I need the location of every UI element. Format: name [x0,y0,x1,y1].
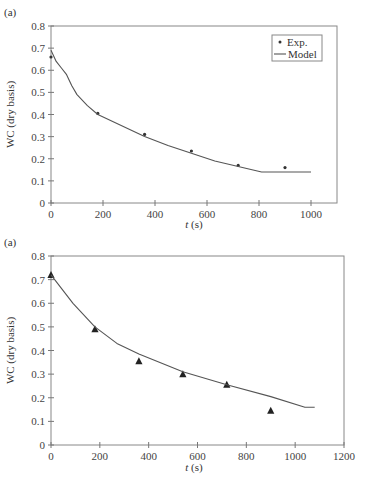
y-tick-label: 0.3 [31,131,45,143]
legend-entry: Model [288,48,317,60]
y-tick-label: 0.2 [31,153,45,165]
y-axis-title: WC (dry basis) [4,81,17,149]
y-axis: 00.10.20.30.40.50.60.70.8 [31,20,54,209]
data-point-triangle [47,271,54,278]
x-axis-title: t (s) [185,461,203,474]
panel-label: (a) [4,236,17,249]
panel-label: (a) [4,6,17,19]
legend-dot-icon [279,41,282,44]
y-tick-label: 0 [40,439,46,451]
y-tick-label: 0.8 [31,20,45,32]
y-tick-label: 0.4 [31,345,45,357]
x-tick-label: 1200 [333,450,356,462]
data-point [49,55,52,58]
x-tick-label: 200 [95,208,112,220]
x-tick-label: 400 [147,208,164,220]
y-tick-label: 0.7 [31,274,45,286]
chart-panel-1: (a)00.10.20.30.40.50.60.70.8020040060080… [4,6,337,231]
y-tick-label: 0.6 [31,297,45,309]
x-tick-label: 1000 [300,208,323,220]
x-tick-label: 400 [140,450,157,462]
y-tick-label: 0.1 [31,175,45,187]
data-point [283,166,286,169]
series-model [51,50,311,172]
x-axis-title: t (s) [185,218,203,231]
x-tick-label: 800 [251,208,268,220]
model-line [51,50,311,172]
y-tick-label: 0.3 [31,368,45,380]
y-tick-label: 0.5 [31,86,45,98]
plot-frame [51,256,344,445]
y-tick-label: 0.8 [31,250,45,262]
figure: (a)00.10.20.30.40.50.60.70.8020040060080… [0,0,366,486]
y-tick-label: 0 [40,197,46,209]
x-tick-label: 200 [92,450,109,462]
chart-panel-2: (a)00.10.20.30.40.50.60.70.8020040060080… [4,236,356,474]
y-tick-label: 0.2 [31,392,45,404]
y-tick-label: 0.5 [31,321,45,333]
y-axis-title: WC (dry basis) [4,317,17,385]
x-tick-label: 800 [238,450,255,462]
legend-entry: Exp. [287,36,308,48]
data-point [190,149,193,152]
legend: Exp.Model [272,35,322,61]
series-exp [49,55,286,169]
data-point-triangle [135,357,142,364]
y-tick-label: 0.1 [31,415,45,427]
y-tick-label: 0.4 [31,109,45,121]
y-tick-label: 0.7 [31,42,45,54]
series-model [51,275,315,407]
data-point-triangle [267,407,274,414]
x-tick-label: 0 [48,208,54,220]
x-tick-label: 1000 [284,450,307,462]
series-exp [47,271,274,414]
model-line [51,275,315,407]
x-tick-label: 0 [48,450,54,462]
y-tick-label: 0.6 [31,64,45,76]
